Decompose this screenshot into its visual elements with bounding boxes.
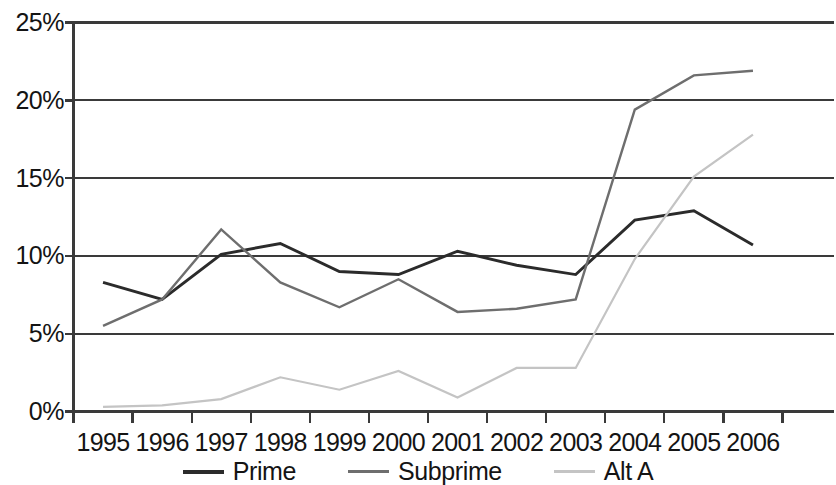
x-axis: 1995199619971998199920002001200220032004… (0, 428, 836, 460)
plot-area (0, 0, 836, 485)
x-tick-label-2002: 2002 (488, 428, 546, 456)
x-tick-label-2004: 2004 (606, 428, 664, 456)
x-tick-label-2003: 2003 (547, 428, 605, 456)
x-tick-label-2005: 2005 (665, 428, 723, 456)
x-tick-label-1998: 1998 (251, 428, 309, 456)
x-tick-label-2001: 2001 (429, 428, 487, 456)
legend-swatch-icon (183, 470, 224, 474)
legend-item-subprime[interactable]: Subprime (348, 459, 502, 484)
x-tick-label-2000: 2000 (369, 428, 427, 456)
legend-swatch-icon (348, 470, 389, 473)
legend-label: Prime (233, 459, 296, 484)
chart-legend: PrimeSubprimeAlt A (0, 458, 836, 485)
x-tick-label-1999: 1999 (310, 428, 368, 456)
x-tick-label-1996: 1996 (133, 428, 191, 456)
y-axis-ticks (65, 23, 74, 412)
x-tick-label-1997: 1997 (192, 428, 250, 456)
legend-label: Subprime (398, 459, 502, 484)
legend-label: Alt A (604, 459, 653, 484)
x-tick-label-1995: 1995 (74, 428, 132, 456)
legend-swatch-icon (554, 470, 595, 473)
x-tick-label-2006: 2006 (724, 428, 782, 456)
line-chart: 25% 20% 15% 10% 5% 0% 199519961997199819… (0, 0, 836, 485)
x-axis-ticks (74, 412, 783, 423)
legend-item-prime[interactable]: Prime (183, 459, 296, 484)
legend-item-alt-a[interactable]: Alt A (554, 459, 653, 484)
data-series-group (103, 71, 753, 407)
gridlines (74, 23, 834, 412)
series-line-subprime (103, 71, 753, 326)
